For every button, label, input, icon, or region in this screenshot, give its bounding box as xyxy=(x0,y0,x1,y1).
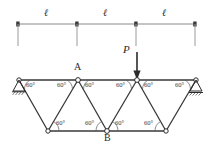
angle-arc-group xyxy=(25,80,191,131)
joint-bottom-3 xyxy=(164,129,168,133)
angle-label-top-4: 60° xyxy=(116,82,125,89)
angle-label-bottom-4: 60° xyxy=(144,120,153,127)
roller-support-hatching xyxy=(190,93,202,96)
node-label-a: A xyxy=(74,62,81,72)
angle-arc-top-4 xyxy=(126,80,132,90)
pin-support-hatching xyxy=(13,92,25,95)
load-label-p: P xyxy=(123,44,130,55)
angle-label-top-1: 60° xyxy=(26,82,35,89)
truss-diagram: ℓ ℓ ℓ P A B 60° 60° 60° 60° 60° 60° 60° … xyxy=(0,0,214,157)
load-arrow-group xyxy=(133,52,140,80)
angle-label-top-2: 60° xyxy=(57,82,66,89)
dimension-label-2: ℓ xyxy=(103,8,107,18)
node-label-b: B xyxy=(104,133,111,143)
angle-label-bottom-2: 60° xyxy=(85,120,94,127)
dimension-label-3: ℓ xyxy=(162,8,166,18)
truss-members-group xyxy=(19,80,196,131)
dimension-label-1: ℓ xyxy=(44,8,48,18)
angle-label-bottom-1: 60° xyxy=(56,120,65,127)
angle-arc-top-2 xyxy=(67,80,73,90)
angle-label-top-3: 60° xyxy=(85,82,94,89)
angle-label-bottom-3: 60° xyxy=(115,120,124,127)
angle-arc-bottom-2 xyxy=(96,122,102,132)
dimension-line-group xyxy=(16,22,196,47)
angle-label-top-6: 60° xyxy=(175,82,184,89)
angle-label-top-5: 60° xyxy=(144,82,153,89)
joint-bottom-1 xyxy=(46,129,50,133)
angle-arc-top-6 xyxy=(185,80,191,90)
joint-node-a xyxy=(76,78,81,83)
joint-node-load xyxy=(135,78,140,83)
angle-arc-bottom-4 xyxy=(155,122,161,132)
